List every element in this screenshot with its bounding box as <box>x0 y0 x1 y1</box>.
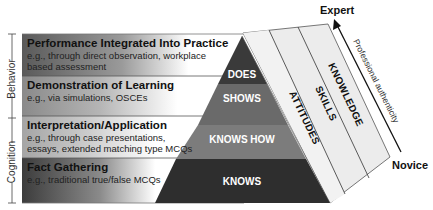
band-title-shows: Demonstration of Learning <box>27 79 174 91</box>
level-label-shows: SHOWS <box>223 93 261 104</box>
band-desc-does-1: e.g., through direct observation, workpl… <box>27 50 206 61</box>
level-label-knows-how: KNOWS HOW <box>209 134 275 145</box>
level-label-knows: KNOWS <box>223 176 262 187</box>
band-title-does: Performance Integrated Into Practice <box>27 37 228 49</box>
band-desc-knows-how-2: essays, extended matching type MCQs <box>27 143 193 154</box>
millers-pyramid-diagram: Performance Integrated Into Practice e.g… <box>0 0 433 210</box>
side-brackets: Behavior Cognition <box>6 34 17 203</box>
level-label-does: DOES <box>228 69 257 80</box>
side-label-cognition: Cognition <box>6 141 17 183</box>
arrow-head-icon <box>333 19 341 30</box>
band-title-knows: Fact Gathering <box>27 161 108 173</box>
side-label-behavior: Behavior <box>6 59 17 99</box>
band-desc-does-2: based assessment <box>27 61 107 72</box>
band-desc-knows-how-1: e.g., through case presentations, <box>27 132 165 143</box>
axis-label-expert: Expert <box>320 4 355 16</box>
band-title-knows-how: Interpretation/Application <box>27 119 167 131</box>
band-desc-shows-1: e.g., via simulations, OSCEs <box>27 92 148 103</box>
axis-label-novice: Novice <box>392 159 428 171</box>
band-desc-knows-1: e.g., traditional true/false MCQs <box>27 174 161 185</box>
